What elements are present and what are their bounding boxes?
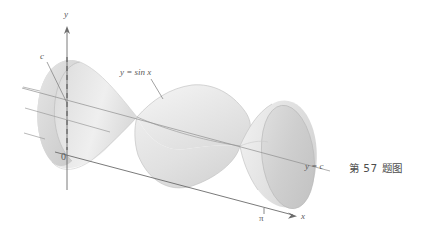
figure-caption: 第 57 题图 xyxy=(349,163,403,174)
axis-line-equation-label: y = c xyxy=(305,162,324,171)
middle-lobe-surface xyxy=(135,85,251,188)
figure-container: y x 0 π c y = sin x y = c 第 57 题图 xyxy=(0,0,425,241)
x-axis-label: x xyxy=(301,212,305,221)
sine-curve-equation-label: y = sin x xyxy=(120,68,151,77)
y-axis-label: y xyxy=(64,10,68,19)
right-lobe-surface xyxy=(240,101,320,212)
pi-label: π xyxy=(259,214,264,223)
origin-label: 0 xyxy=(61,152,66,162)
solid-of-revolution-illustration xyxy=(0,0,425,241)
x-axis-arrow xyxy=(288,213,297,219)
c-level-label: c xyxy=(40,52,44,61)
sin-label-leader-line xyxy=(151,79,163,99)
